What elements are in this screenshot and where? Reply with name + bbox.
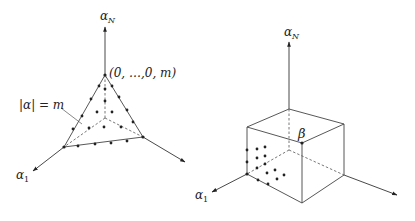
simplex-diagram: αN (0, …,0, m) |α| = m α1 xyxy=(16,9,185,184)
simplex-lattice-points xyxy=(62,73,144,148)
apex-label: (0, …,0, m) xyxy=(109,66,176,80)
box-hidden-right xyxy=(289,150,344,175)
third-axis xyxy=(344,175,397,195)
alpha-n-label: αN xyxy=(284,25,300,41)
surface-label: |α| = m xyxy=(19,98,64,112)
simplex-edge-right xyxy=(105,75,143,137)
third-axis xyxy=(143,137,185,162)
box-diagram: αN β α1 xyxy=(195,25,397,204)
alpha-1-axis xyxy=(33,147,64,171)
box-edge-bottom-left xyxy=(247,174,302,203)
box-lattice-points xyxy=(245,141,303,185)
alpha-1-axis xyxy=(212,174,247,192)
alpha-1-label: α1 xyxy=(16,168,29,184)
beta-label: β xyxy=(297,126,306,141)
box-edge-bottom-right xyxy=(302,175,344,203)
box-hidden-left xyxy=(247,150,289,174)
alpha-n-label: αN xyxy=(100,9,116,25)
figure: αN (0, …,0, m) |α| = m α1 xyxy=(0,0,415,221)
box-top-face xyxy=(247,109,344,143)
alpha-1-label: α1 xyxy=(195,188,208,204)
simplex-edge-front xyxy=(64,137,143,147)
